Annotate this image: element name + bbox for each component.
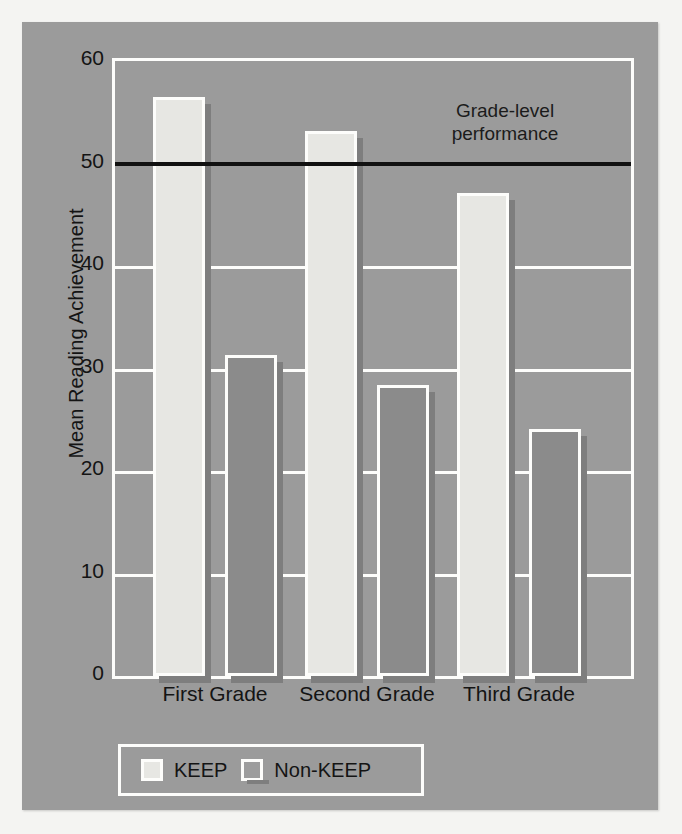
y-tick-0: 0 <box>44 661 104 685</box>
bar-face <box>529 429 581 676</box>
legend-item-keep[interactable]: KEEP <box>141 759 227 782</box>
legend-swatch-keep-icon <box>141 759 163 781</box>
y-tick-40: 40 <box>44 251 104 275</box>
bar-face <box>305 131 357 676</box>
chart-panel: Mean Reading Achievement 60 50 40 30 20 … <box>22 22 658 810</box>
bar-keep-second-grade[interactable] <box>305 131 357 676</box>
grade-level-reference-line <box>115 162 631 166</box>
legend-swatch-nonkeep-icon <box>241 759 263 781</box>
y-tick-20: 20 <box>44 456 104 480</box>
bar-nonkeep-third-grade[interactable] <box>529 429 581 676</box>
figure-page: Mean Reading Achievement 60 50 40 30 20 … <box>0 0 682 834</box>
bar-nonkeep-first-grade[interactable] <box>225 355 277 676</box>
bar-face <box>153 97 205 676</box>
y-tick-30: 30 <box>44 354 104 378</box>
bar-face <box>377 385 429 676</box>
grade-level-annotation: Grade-level performance <box>395 99 615 145</box>
x-axis-labels: First Grade Second Grade Third Grade <box>112 682 634 712</box>
x-label-second-grade: Second Grade <box>299 682 434 706</box>
bar-face <box>457 193 509 676</box>
bar-keep-first-grade[interactable] <box>153 97 205 676</box>
y-tick-10: 10 <box>44 559 104 583</box>
y-tick-50: 50 <box>44 149 104 173</box>
x-label-first-grade: First Grade <box>162 682 267 706</box>
plot-area: Grade-level performance <box>112 58 634 679</box>
legend: KEEP Non-KEEP <box>118 744 424 796</box>
legend-item-nonkeep[interactable]: Non-KEEP <box>241 759 371 782</box>
legend-label-keep: KEEP <box>174 759 227 782</box>
legend-label-nonkeep: Non-KEEP <box>274 759 371 782</box>
y-tick-60: 60 <box>44 46 104 70</box>
plot-inner: Grade-level performance <box>115 61 631 676</box>
bar-nonkeep-second-grade[interactable] <box>377 385 429 676</box>
bar-face <box>225 355 277 676</box>
x-label-third-grade: Third Grade <box>463 682 575 706</box>
bar-keep-third-grade[interactable] <box>457 193 509 676</box>
y-axis-ticks: 60 50 40 30 20 10 0 <box>22 58 104 673</box>
